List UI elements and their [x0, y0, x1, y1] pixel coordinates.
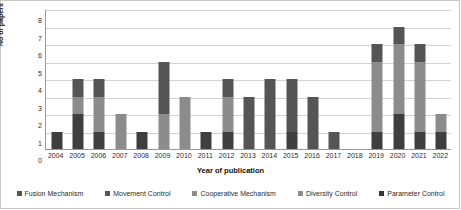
bar-slot[interactable]	[110, 10, 131, 149]
bar-segment[interactable]	[286, 132, 297, 150]
bar-segment[interactable]	[201, 132, 212, 150]
bar-stack[interactable]	[179, 97, 190, 150]
x-tick-2017: 2017	[323, 152, 344, 160]
bar-segment[interactable]	[308, 97, 319, 150]
legend-label: Diversity Control	[306, 190, 357, 197]
bar-segment[interactable]	[222, 79, 233, 97]
bar-slot[interactable]	[409, 10, 430, 149]
bar-slot[interactable]	[324, 10, 345, 149]
bar-slot[interactable]	[260, 10, 281, 149]
bar-slot[interactable]	[367, 10, 388, 149]
bar-segment[interactable]	[436, 114, 447, 132]
legend-swatch-icon	[17, 191, 22, 196]
bar-stack[interactable]	[51, 132, 62, 150]
bar-segment[interactable]	[222, 97, 233, 132]
bar-segment[interactable]	[158, 114, 169, 149]
y-tick-5: 5	[22, 69, 42, 76]
bar-segment[interactable]	[222, 132, 233, 150]
bar-segment[interactable]	[436, 132, 447, 150]
bar-segment[interactable]	[51, 132, 62, 150]
bar-slot[interactable]	[89, 10, 110, 149]
bar-slot[interactable]	[388, 10, 409, 149]
x-tick-2005: 2005	[66, 152, 87, 160]
bar-slot[interactable]	[281, 10, 302, 149]
y-tick-6: 6	[22, 52, 42, 59]
stacked-bar-chart: No of papers 876543210 20042005200620072…	[0, 0, 461, 210]
bar-segment[interactable]	[372, 44, 383, 62]
bar-segment[interactable]	[115, 114, 126, 149]
legend-item[interactable]: Fusion Mechanism	[17, 190, 84, 197]
x-tick-2009: 2009	[152, 152, 173, 160]
bar-stack[interactable]	[265, 79, 276, 149]
legend-item[interactable]: Movement Control	[105, 190, 170, 197]
bar-stack[interactable]	[222, 79, 233, 149]
bar-segment[interactable]	[243, 97, 254, 150]
bar-segment[interactable]	[414, 44, 425, 62]
legend-item[interactable]: Parameter Control	[379, 190, 444, 197]
bar-segment[interactable]	[94, 97, 105, 132]
bar-segment[interactable]	[179, 97, 190, 150]
bar-slot[interactable]	[302, 10, 323, 149]
bar-segment[interactable]	[372, 132, 383, 150]
bar-segment[interactable]	[329, 132, 340, 150]
bar-slot[interactable]	[238, 10, 259, 149]
bar-stack[interactable]	[201, 132, 212, 150]
bar-segment[interactable]	[265, 79, 276, 149]
y-axis-title: No of papers	[0, 3, 4, 46]
bar-slot[interactable]	[196, 10, 217, 149]
x-tick-2008: 2008	[130, 152, 151, 160]
bar-stack[interactable]	[308, 97, 319, 150]
bar-stack[interactable]	[243, 97, 254, 150]
bar-slot[interactable]	[345, 10, 366, 149]
bar-slot[interactable]	[46, 10, 67, 149]
legend-swatch-icon	[379, 191, 384, 196]
bars-layer	[46, 10, 451, 149]
y-tick-4: 4	[22, 87, 42, 94]
bar-slot[interactable]	[217, 10, 238, 149]
bar-segment[interactable]	[393, 27, 404, 45]
legend-item[interactable]: Cooperative Mechanism	[192, 190, 275, 197]
bar-stack[interactable]	[372, 44, 383, 149]
bar-stack[interactable]	[94, 79, 105, 149]
legend-label: Cooperative Mechanism	[200, 190, 275, 197]
bar-stack[interactable]	[436, 114, 447, 149]
bar-stack[interactable]	[286, 79, 297, 149]
plot-area	[45, 10, 451, 150]
bar-segment[interactable]	[393, 44, 404, 114]
bar-segment[interactable]	[286, 79, 297, 132]
bar-slot[interactable]	[431, 10, 452, 149]
bar-stack[interactable]	[393, 27, 404, 150]
x-tick-2022: 2022	[430, 152, 451, 160]
bar-slot[interactable]	[153, 10, 174, 149]
y-tick-8: 8	[22, 17, 42, 24]
bar-slot[interactable]	[174, 10, 195, 149]
bar-segment[interactable]	[414, 132, 425, 150]
bar-segment[interactable]	[73, 79, 84, 97]
bar-segment[interactable]	[94, 132, 105, 150]
bar-segment[interactable]	[372, 62, 383, 132]
y-tick-1: 1	[22, 139, 42, 146]
bar-slot[interactable]	[131, 10, 152, 149]
bar-segment[interactable]	[137, 132, 148, 150]
y-axis-tick-labels: 876543210	[18, 10, 42, 150]
x-tick-2014: 2014	[259, 152, 280, 160]
bar-stack[interactable]	[73, 79, 84, 149]
bar-stack[interactable]	[137, 132, 148, 150]
bar-segment[interactable]	[73, 114, 84, 149]
y-tick-7: 7	[22, 34, 42, 41]
bar-segment[interactable]	[393, 114, 404, 149]
bar-segment[interactable]	[94, 79, 105, 97]
legend-label: Fusion Mechanism	[25, 190, 84, 197]
bar-segment[interactable]	[73, 97, 84, 115]
bar-segment[interactable]	[158, 62, 169, 115]
x-tick-2004: 2004	[45, 152, 66, 160]
legend-label: Parameter Control	[387, 190, 444, 197]
bar-stack[interactable]	[115, 114, 126, 149]
chart-legend: Fusion MechanismMovement ControlCooperat…	[0, 190, 461, 197]
bar-segment[interactable]	[414, 62, 425, 132]
bar-stack[interactable]	[329, 132, 340, 150]
legend-item[interactable]: Diversity Control	[298, 190, 357, 197]
bar-stack[interactable]	[414, 44, 425, 149]
bar-slot[interactable]	[67, 10, 88, 149]
bar-stack[interactable]	[158, 62, 169, 150]
